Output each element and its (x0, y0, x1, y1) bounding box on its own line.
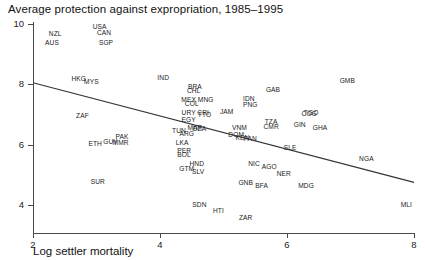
data-point-label: NIC (248, 160, 260, 167)
x-tick-mark (287, 233, 288, 238)
data-point-label: DZA (193, 125, 207, 132)
y-tick-label: 8 (2, 78, 24, 89)
data-point-label: SDN (192, 200, 206, 207)
data-point-label: TTO (198, 110, 211, 117)
data-point-label: CMR (263, 123, 278, 130)
x-tick-mark (33, 233, 34, 238)
data-point-label: GAB (266, 85, 280, 92)
data-point-label: MMR (113, 138, 129, 145)
data-point-label: EGY (181, 116, 195, 123)
data-point-label: LKA (176, 138, 189, 145)
data-point-label: GTM (179, 165, 194, 172)
x-tick-label: 8 (404, 239, 424, 250)
data-point-label: GHA (313, 124, 328, 131)
data-point-label: SUR (91, 177, 105, 184)
scatter-chart: Average protection against expropriation… (0, 0, 425, 260)
x-axis-line (33, 233, 414, 234)
x-tick-mark (414, 233, 415, 238)
x-tick-label: 4 (150, 239, 170, 250)
y-tick-mark (28, 84, 33, 85)
data-point-label: CHL (187, 86, 201, 93)
data-point-label: GMB (340, 76, 355, 83)
data-point-label: IND (157, 73, 169, 80)
data-point-label: PNG (243, 100, 258, 107)
data-point-label: URY (182, 108, 196, 115)
x-tick-label: 6 (277, 239, 297, 250)
data-point-label: AGO (262, 163, 277, 170)
data-point-label: MLI (401, 201, 412, 208)
data-point-label: GNB (238, 179, 253, 186)
data-point-label: JAM (220, 107, 234, 114)
data-point-label: VNM (232, 123, 247, 130)
y-axis-line (33, 22, 34, 234)
y-tick-label: 10 (2, 18, 24, 29)
data-point-label: BFA (255, 182, 268, 189)
data-point-label: MDG (298, 181, 314, 188)
data-point-label: NGA (359, 155, 374, 162)
data-point-label: MYS (84, 78, 99, 85)
y-tick-mark (28, 24, 33, 25)
data-point-label: BOL (177, 151, 191, 158)
y-tick-label: 4 (2, 199, 24, 210)
y-tick-mark (28, 205, 33, 206)
data-point-label: COL (185, 100, 199, 107)
data-point-label: ETH (88, 140, 102, 147)
data-point-label: PAN (244, 135, 257, 142)
data-point-label: AUS (45, 39, 59, 46)
y-tick-label: 6 (2, 139, 24, 150)
regression-line (0, 0, 425, 260)
data-point-label: HTI (213, 207, 224, 214)
data-point-label: NER (277, 170, 291, 177)
data-point-label: MNG (198, 95, 214, 102)
data-point-label: NZL (49, 30, 62, 37)
data-point-label: GIN (294, 120, 306, 127)
data-point-label: ZAR (239, 213, 253, 220)
y-tick-mark (28, 145, 33, 146)
x-axis-label: Log settler mortality (33, 245, 133, 257)
data-point-label: CAN (97, 29, 111, 36)
data-point-label: SGP (99, 38, 113, 45)
data-point-label: ZAF (76, 111, 89, 118)
x-tick-mark (160, 233, 161, 238)
data-point-label: COG (302, 110, 317, 117)
chart-title: Average protection against expropriation… (8, 3, 283, 15)
data-point-label: SLE (284, 144, 297, 151)
